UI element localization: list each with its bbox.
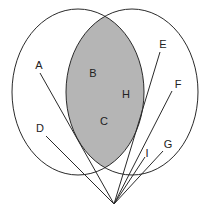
ray-label-a: A <box>35 59 43 71</box>
ray-label-d: D <box>36 122 44 134</box>
region-label-h: H <box>122 88 130 100</box>
venn-diagram: ADEFIGBHC <box>0 0 209 212</box>
intersection-region <box>66 9 198 175</box>
ray-g <box>114 151 163 204</box>
region-label-c: C <box>100 115 108 127</box>
ray-i <box>114 157 145 204</box>
region-label-b: B <box>89 67 96 79</box>
ray-label-i: I <box>145 147 148 159</box>
ray-label-f: F <box>175 78 182 90</box>
ray-label-e: E <box>159 38 166 50</box>
ray-label-g: G <box>164 138 173 150</box>
